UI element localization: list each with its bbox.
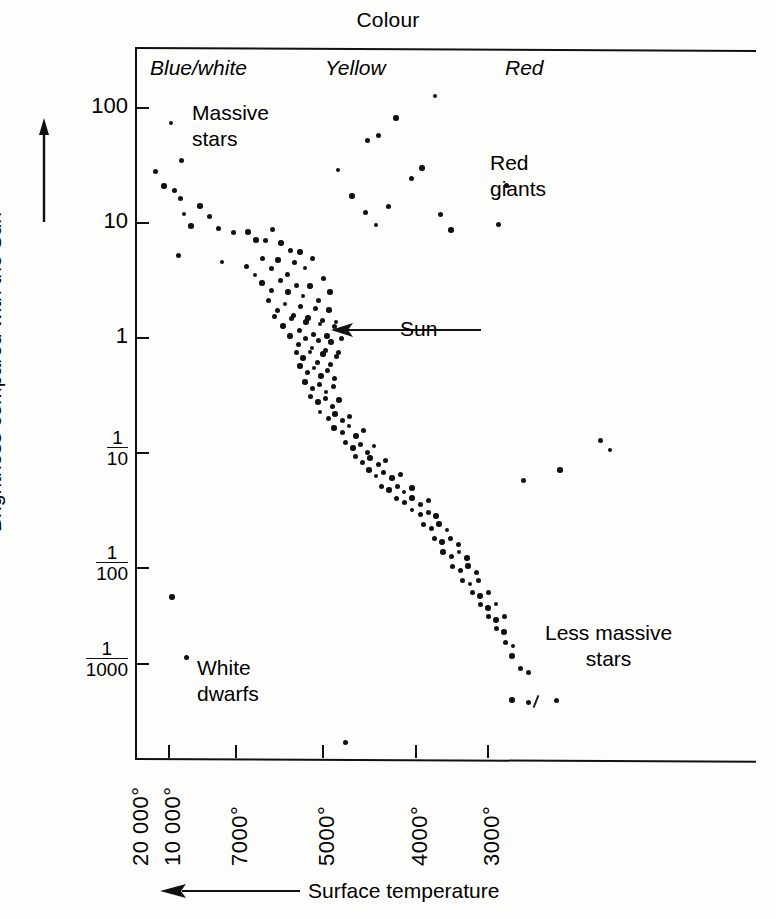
star-point bbox=[305, 370, 310, 375]
star-point bbox=[169, 594, 174, 599]
temperature-left-arrow-icon bbox=[160, 883, 300, 899]
star-point bbox=[297, 249, 302, 254]
star-point bbox=[176, 253, 181, 258]
star-point bbox=[402, 500, 407, 505]
star-point bbox=[598, 438, 603, 443]
star-point bbox=[470, 590, 475, 595]
star-point bbox=[477, 593, 482, 598]
star-point bbox=[365, 450, 370, 455]
star-point bbox=[419, 165, 424, 170]
star-point bbox=[476, 578, 481, 583]
star-point bbox=[557, 467, 562, 472]
star-point bbox=[393, 115, 398, 120]
star-point bbox=[292, 260, 297, 265]
star-point bbox=[178, 196, 183, 201]
star-point bbox=[448, 227, 453, 232]
star-point bbox=[285, 272, 290, 277]
star-point bbox=[353, 454, 358, 459]
star-point bbox=[310, 386, 315, 391]
star-point bbox=[272, 314, 277, 319]
star-point bbox=[197, 203, 202, 208]
star-point bbox=[216, 226, 221, 231]
star-point bbox=[501, 629, 506, 634]
star-point bbox=[184, 655, 189, 660]
star-point bbox=[253, 237, 258, 242]
star-point bbox=[332, 376, 337, 381]
star-point bbox=[496, 222, 501, 227]
star-point bbox=[410, 508, 414, 512]
star-point bbox=[326, 416, 331, 421]
star-point bbox=[301, 294, 305, 298]
star-point bbox=[332, 411, 337, 416]
region-label-white-dwarfs: White dwarfs bbox=[197, 655, 259, 706]
star-point bbox=[383, 458, 388, 463]
star-point bbox=[457, 550, 461, 554]
star-point bbox=[269, 266, 274, 271]
star-point bbox=[386, 204, 391, 209]
star-point bbox=[486, 590, 491, 595]
y-tick-label: 1100 bbox=[8, 543, 128, 584]
star-point bbox=[269, 288, 274, 293]
star-point bbox=[376, 462, 381, 467]
star-point bbox=[365, 138, 370, 143]
star-point bbox=[244, 264, 249, 269]
hr-diagram-figure: Colour Brightness compared with the Sun … bbox=[0, 0, 776, 919]
star-point bbox=[389, 475, 394, 480]
star-point bbox=[289, 316, 294, 321]
star-point bbox=[328, 362, 333, 367]
y-tick-label: 100 bbox=[8, 95, 128, 117]
star-point bbox=[376, 133, 381, 138]
star-point bbox=[509, 653, 514, 658]
star-point bbox=[418, 512, 423, 517]
star-point bbox=[438, 212, 443, 217]
brightness-up-arrow-icon bbox=[38, 118, 50, 222]
star-point bbox=[608, 448, 612, 452]
star-point bbox=[343, 440, 348, 445]
star-point bbox=[302, 379, 307, 384]
star-point bbox=[363, 210, 368, 215]
star-point bbox=[486, 614, 491, 619]
star-point bbox=[260, 256, 265, 261]
star-point bbox=[494, 626, 499, 631]
star-point bbox=[526, 700, 531, 705]
star-point bbox=[478, 602, 483, 607]
y-tick-label: 10 bbox=[8, 210, 128, 232]
star-point bbox=[288, 248, 293, 253]
star-point bbox=[554, 698, 559, 703]
colour-band-label-red: Red bbox=[505, 56, 544, 80]
star-point bbox=[494, 602, 498, 606]
star-point bbox=[321, 276, 326, 281]
star-point bbox=[460, 578, 465, 583]
star-point bbox=[449, 554, 454, 559]
colour-axis-title: Colour bbox=[0, 8, 776, 32]
star-point bbox=[439, 539, 444, 544]
star-point bbox=[421, 522, 426, 527]
star-point bbox=[464, 555, 469, 560]
star-point bbox=[509, 697, 514, 702]
star-point bbox=[324, 390, 328, 394]
star-point bbox=[374, 474, 378, 478]
star-point bbox=[521, 478, 526, 483]
star-point bbox=[340, 430, 345, 435]
star-point bbox=[331, 384, 336, 389]
star-point bbox=[526, 670, 531, 675]
star-point bbox=[303, 336, 308, 341]
star-point bbox=[316, 338, 321, 343]
star-point bbox=[328, 339, 333, 344]
star-point bbox=[331, 425, 336, 430]
star-point bbox=[336, 397, 341, 402]
star-point bbox=[179, 158, 184, 163]
star-point bbox=[409, 176, 414, 181]
region-label-less-massive-stars: Less massive stars bbox=[545, 620, 672, 671]
star-point bbox=[426, 510, 431, 515]
y-tick-label: 1 bbox=[8, 325, 128, 347]
star-point bbox=[340, 418, 345, 423]
star-point bbox=[296, 342, 301, 347]
star-point bbox=[361, 428, 366, 433]
star-point bbox=[485, 605, 490, 610]
star-point bbox=[474, 570, 479, 575]
star-point bbox=[347, 424, 351, 428]
star-point bbox=[343, 740, 348, 745]
star-point bbox=[275, 257, 280, 262]
x-tick-label: 4000° bbox=[407, 806, 433, 866]
